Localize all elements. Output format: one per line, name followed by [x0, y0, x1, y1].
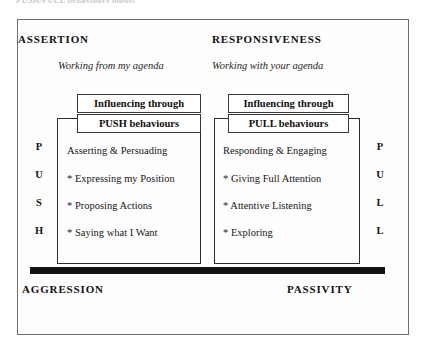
push-list-lead: Asserting & Persuading — [67, 143, 175, 158]
pull-list-lead: Responding & Engaging — [223, 143, 327, 158]
vertical-letter: L — [372, 224, 388, 238]
pole-label-responsiveness: RESPONSIVENESS — [212, 33, 322, 45]
pole-label-aggression: AGGRESSION — [22, 283, 104, 295]
vertical-axis-label-pull: P U L L — [372, 140, 388, 238]
vertical-letter: P — [372, 140, 388, 154]
vertical-letter: H — [31, 224, 47, 238]
vertical-letter: L — [372, 196, 388, 210]
vertical-letter: S — [31, 196, 47, 210]
agenda-caption-right: Working with your agenda — [212, 60, 323, 71]
vertical-letter: U — [372, 168, 388, 182]
pull-list-item: * Exploring — [223, 225, 327, 240]
pull-behaviour-list: Responding & Engaging * Giving Full Atte… — [223, 143, 327, 240]
push-behaviours-box: PUSH behaviours — [77, 114, 201, 133]
push-list-item: * Expressing my Position — [67, 171, 175, 186]
vertical-letter: P — [31, 140, 47, 154]
push-behaviour-list: Asserting & Persuading * Expressing my P… — [67, 143, 175, 240]
pull-influencing-through-box: Influencing through — [228, 94, 349, 113]
clipped-caption-line: PUSH/PULL behaviours model — [16, 0, 236, 5]
vertical-axis-label-push: P U S H — [31, 140, 47, 238]
pull-list-item: * Attentive Listening — [223, 198, 327, 213]
pull-list-item: * Giving Full Attention — [223, 171, 327, 186]
pole-label-assertion: ASSERTION — [18, 33, 89, 45]
pole-label-passivity: PASSIVITY — [287, 283, 353, 295]
pull-behaviours-box: PULL behaviours — [228, 114, 349, 133]
push-list-item: * Saying what I Want — [67, 225, 175, 240]
push-list-item: * Proposing Actions — [67, 198, 175, 213]
vertical-letter: U — [31, 168, 47, 182]
push-influencing-through-box: Influencing through — [77, 94, 201, 113]
agenda-caption-left: Working from my agenda — [58, 60, 164, 71]
divider-bar — [30, 267, 385, 274]
